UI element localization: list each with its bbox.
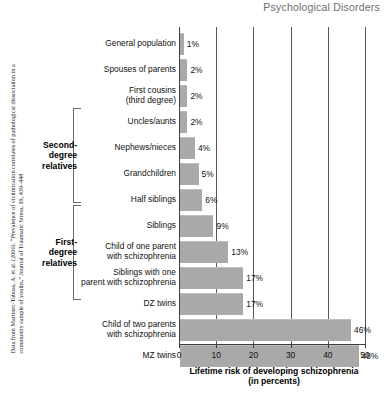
bar <box>180 293 243 315</box>
bar-row: Spouses of parents2% <box>0 57 392 83</box>
x-tick-mark <box>216 344 217 348</box>
bar-value-label: 4% <box>198 143 210 153</box>
bar-value-label: 1% <box>187 39 199 49</box>
x-axis-title: Lifetime risk of developing schizophreni… <box>179 366 369 387</box>
bar-value-label: 5% <box>202 169 214 179</box>
x-tick-mark <box>179 344 180 348</box>
bar-category-label: DZ twins <box>16 299 176 309</box>
x-tick-label: 10 <box>212 350 221 360</box>
bar-row: Child of two parents with schizophrenia4… <box>0 317 392 343</box>
bar <box>180 111 187 133</box>
bar-value-label: 2% <box>190 117 202 127</box>
x-tick-label: 30 <box>286 350 295 360</box>
bar-value-label: 2% <box>190 65 202 75</box>
x-tick-label: 20 <box>249 350 258 360</box>
bar-category-label: General population <box>16 39 176 49</box>
x-tick-label: 40 <box>323 350 332 360</box>
bar-value-label: 6% <box>205 195 217 205</box>
group-label: First- degree relatives <box>42 237 82 268</box>
bar <box>180 189 202 211</box>
bar-row: General population1% <box>0 31 392 57</box>
bar-category-label: Spouses of parents <box>16 65 176 75</box>
group-label-block: Second- degree relatives <box>20 108 82 203</box>
bar <box>180 85 187 107</box>
bar <box>180 137 195 159</box>
bar-value-label: 2% <box>190 91 202 101</box>
bar <box>180 59 187 81</box>
bar <box>180 33 184 55</box>
bar-category-label: First cousins (third degree) <box>16 86 176 105</box>
bar <box>180 319 351 341</box>
x-tick-mark <box>328 344 329 348</box>
x-tick-label: 50 <box>360 350 369 360</box>
bar-category-label: Child of two parents with schizophrenia <box>16 320 176 339</box>
bar <box>180 215 213 237</box>
bar <box>180 163 199 185</box>
bar-value-label: 17% <box>246 299 263 309</box>
bar-value-label: 13% <box>231 247 248 257</box>
group-label-block: First- degree relatives <box>20 205 82 300</box>
x-tick-mark <box>253 344 254 348</box>
bar-row: First cousins (third degree)2% <box>0 83 392 109</box>
group-label: Second- degree relatives <box>42 140 82 171</box>
x-tick-mark <box>365 344 366 348</box>
bar-category-label: MZ twins <box>16 351 176 361</box>
bar <box>180 267 243 289</box>
x-tick-mark <box>291 344 292 348</box>
bar-value-label: 9% <box>216 221 228 231</box>
bar-value-label: 17% <box>246 273 263 283</box>
bar-value-label: 46% <box>354 325 371 335</box>
x-tick-label: 0 <box>177 350 182 360</box>
bar <box>180 241 228 263</box>
